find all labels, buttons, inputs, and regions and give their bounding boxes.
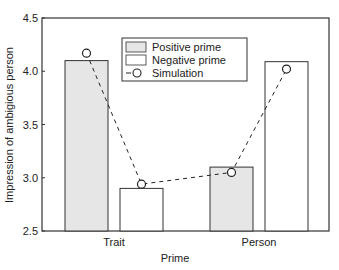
y-tick-label: 3.0 (23, 172, 38, 184)
legend-label-simulation: Simulation (152, 67, 203, 79)
x-axis-title: Prime (161, 252, 190, 264)
legend-label-negative: Negative prime (152, 54, 226, 66)
simulation-point (283, 65, 291, 73)
x-axis-ticks: TraitPerson (103, 236, 276, 248)
simulation-point (83, 49, 91, 57)
legend-swatch-positive (126, 42, 146, 52)
legend-label-positive: Positive prime (152, 41, 221, 53)
x-tick-label: Trait (103, 236, 125, 248)
x-tick-label: Person (242, 236, 277, 248)
y-axis-title: Impression of ambigious person (3, 47, 15, 203)
chart: 2.53.03.54.04.5 TraitPerson Prime Impres… (0, 0, 339, 270)
bar-trait-positive-prime (65, 61, 108, 231)
legend-swatch-simulation-marker (133, 69, 141, 77)
y-tick-label: 4.5 (23, 12, 38, 24)
legend: Positive prime Negative prime Simulation (122, 38, 247, 81)
y-tick-label: 4.0 (23, 65, 38, 77)
bar-person-negative-prime (265, 62, 308, 231)
y-tick-label: 2.5 (23, 225, 38, 237)
legend-swatch-negative (126, 55, 146, 65)
bar-trait-negative-prime (120, 188, 163, 231)
y-tick-label: 3.5 (23, 119, 38, 131)
simulation-point (228, 168, 236, 176)
bars (65, 61, 308, 231)
simulation-point (138, 180, 146, 188)
